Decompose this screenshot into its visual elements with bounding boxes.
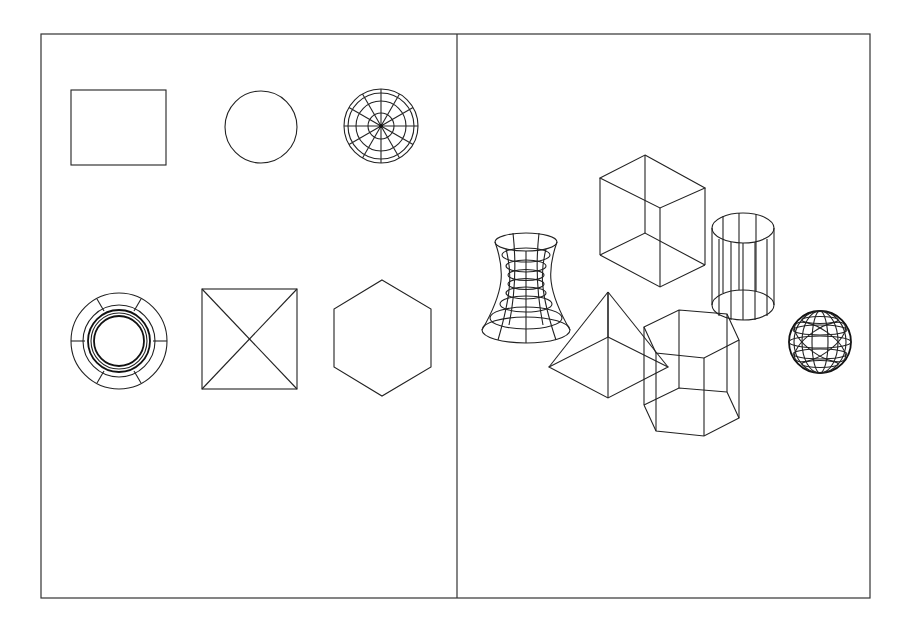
- hexagonal-prism-3d: [644, 310, 739, 436]
- cylinder-3d: [712, 213, 774, 320]
- right-panel: [482, 155, 851, 436]
- hyperboloid-3d: [482, 233, 570, 343]
- hyperboloid-top-view: [71, 293, 167, 389]
- circle-shape: [225, 91, 297, 163]
- hexagonal-prism-top-view: [334, 280, 431, 396]
- pyramid-3d: [549, 292, 668, 398]
- drawing-frame: [41, 34, 870, 598]
- left-panel: [71, 89, 431, 396]
- box-3d: [600, 155, 705, 287]
- drawing-canvas: [0, 0, 911, 622]
- sphere-3d: [789, 311, 852, 373]
- rectangle-shape: [71, 90, 166, 165]
- pyramid-top-view: [202, 289, 297, 389]
- sphere-top-view: [344, 89, 418, 163]
